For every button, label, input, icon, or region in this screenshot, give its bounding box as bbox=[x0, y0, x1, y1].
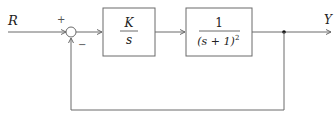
block-diagram: R + − K s 1 (s + 1) 2 Y bbox=[0, 0, 336, 117]
plant-denominator-exponent: 2 bbox=[235, 34, 239, 42]
summing-junction bbox=[66, 27, 76, 37]
controller-denominator: s bbox=[126, 33, 132, 47]
plant-numerator: 1 bbox=[215, 16, 223, 30]
plant-denominator: (s + 1) bbox=[197, 35, 234, 48]
output-label-y: Y bbox=[324, 13, 333, 27]
input-label-r: R bbox=[7, 13, 18, 28]
minus-sign: − bbox=[78, 39, 86, 50]
plus-sign: + bbox=[57, 14, 65, 25]
controller-numerator: K bbox=[124, 16, 135, 30]
